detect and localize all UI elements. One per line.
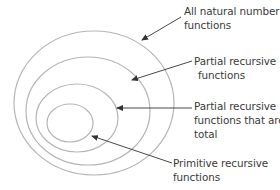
label-all-natural-number-functions: All natural number functions: [184, 4, 279, 32]
label-line: Primitive recursive: [173, 156, 268, 170]
ellipse-all-natural-number-functions: [14, 31, 174, 175]
label-partial-recursive-functions: Partial recursive functions: [194, 54, 276, 82]
label-line: Partial recursive: [194, 99, 280, 113]
label-primitive-recursive-functions: Primitive recursive functions: [173, 156, 268, 184]
label-line: functions: [173, 170, 268, 184]
label-line: Partial recursive: [194, 54, 276, 68]
arrow-primitive-recursive-functions: [92, 136, 172, 163]
arrow-partial-recursive-functions: [132, 61, 192, 80]
label-partial-recursive-total: Partial recursive functions that are tot…: [194, 99, 280, 141]
ellipse-primitive-recursive-functions: [47, 104, 93, 142]
label-line: functions: [184, 18, 279, 32]
label-line: total: [194, 127, 280, 141]
label-line: All natural number: [184, 4, 279, 18]
arrow-all-natural-number-functions: [142, 17, 181, 40]
label-line: functions that are: [194, 113, 280, 127]
label-line: functions: [194, 68, 276, 82]
